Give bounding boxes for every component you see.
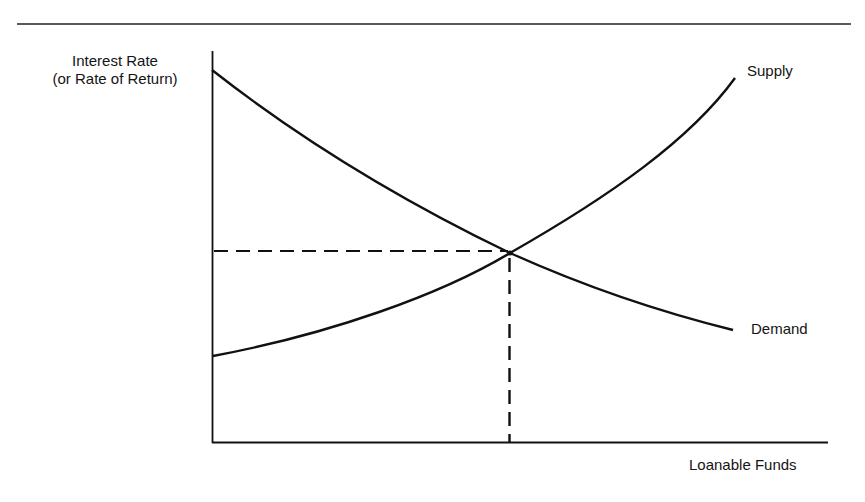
y-axis-label-line1: Interest Rate xyxy=(20,52,210,70)
supply-curve xyxy=(213,78,735,356)
supply-label: Supply xyxy=(747,62,793,80)
y-axis-label-line2: (or Rate of Return) xyxy=(20,70,210,88)
y-axis-label: Interest Rate (or Rate of Return) xyxy=(20,52,210,88)
loanable-funds-diagram: Interest Rate (or Rate of Return) Supply… xyxy=(0,0,865,502)
x-axis-label: Loanable Funds xyxy=(689,456,797,474)
demand-label: Demand xyxy=(751,320,808,338)
demand-curve xyxy=(212,70,733,330)
equilibrium-point xyxy=(508,251,513,256)
